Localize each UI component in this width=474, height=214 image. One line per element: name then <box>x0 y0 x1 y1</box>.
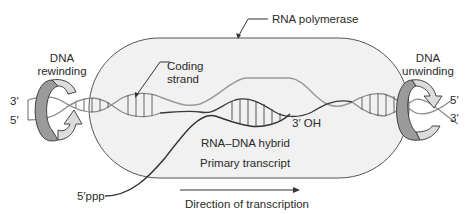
label-dna-unwinding-1: DNA <box>416 52 441 64</box>
label-5-ppp: 5′ppp <box>77 190 105 202</box>
label-left-5-prime: 5′ <box>10 114 19 126</box>
label-3-oh: 3′ OH <box>292 117 321 129</box>
dna-rewinding-arrow-icon <box>35 80 82 142</box>
label-primary-transcript: Primary transcript <box>200 157 291 169</box>
transcription-diagram: RNA polymerase Coding strand DNA rewindi… <box>0 0 474 214</box>
label-right-5-prime: 5′ <box>450 94 459 106</box>
label-dna-unwinding-2: unwinding <box>402 65 454 77</box>
label-dna-rewinding-2: rewinding <box>37 65 86 77</box>
rna-polymerase-leader <box>238 19 268 37</box>
direction-arrow-head-icon <box>293 187 300 193</box>
label-coding-strand-1: Coding <box>167 60 203 72</box>
label-left-3-prime: 3′ <box>10 95 19 107</box>
label-coding-strand-2: strand <box>167 73 199 85</box>
label-rna-polymerase: RNA polymerase <box>272 13 358 25</box>
label-rna-dna-hybrid: RNA–DNA hybrid <box>201 137 290 149</box>
label-direction-of-transcription: Direction of transcription <box>185 198 309 210</box>
label-dna-rewinding-1: DNA <box>50 52 75 64</box>
label-right-3-prime: 3′ <box>450 112 459 124</box>
